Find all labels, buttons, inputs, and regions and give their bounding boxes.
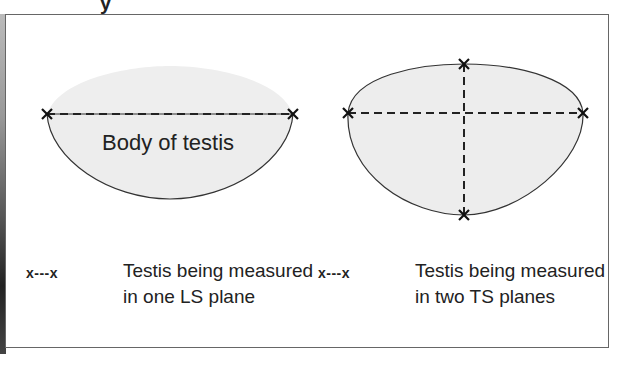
legend-ts-line1: Testis being measured <box>415 258 631 284</box>
dashed-marker-icon: x---x <box>26 260 58 286</box>
legend-ts-line2: in two TS planes <box>415 284 631 310</box>
legend-ls-line2: in one LS plane <box>123 284 363 310</box>
right-testis-body <box>348 64 583 215</box>
left-testis-body <box>47 114 293 199</box>
left-diagram-label: Body of testis <box>102 130 234 156</box>
dashed-marker-icon: x---x <box>318 260 350 286</box>
right-testis-ts <box>343 59 588 220</box>
left-testis-dome <box>47 66 293 114</box>
testis-diagrams <box>0 0 631 371</box>
